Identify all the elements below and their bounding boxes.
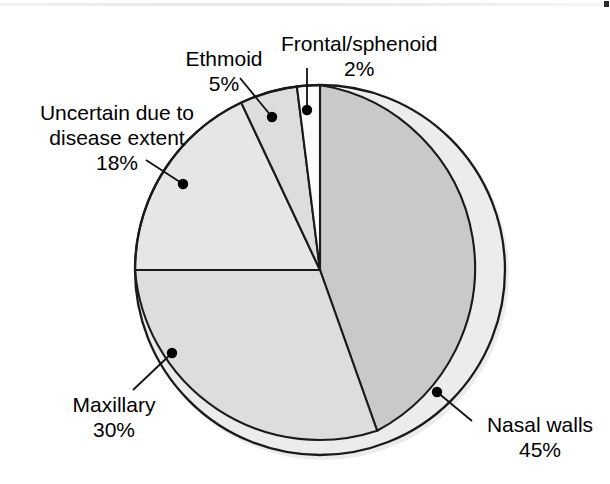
leader-dot-ethmoid — [267, 112, 277, 122]
slice-label-uncertain-name-line2: disease extent — [22, 125, 212, 150]
slice-label-maxillary-name: Maxillary — [56, 392, 172, 417]
slice-label-uncertain: Uncertain due to disease extent 18% — [22, 100, 212, 175]
leader-dot-uncertain — [178, 179, 188, 189]
slice-label-ethmoid: Ethmoid 5% — [178, 46, 270, 96]
leader-dot-nasal-walls — [432, 387, 442, 397]
slice-label-uncertain-percent: 18% — [22, 150, 212, 175]
slice-label-maxillary: Maxillary 30% — [56, 392, 172, 442]
slice-label-ethmoid-name: Ethmoid — [178, 46, 270, 71]
leader-dot-maxillary — [167, 348, 177, 358]
slice-label-nasal-walls-percent: 45% — [478, 437, 602, 462]
slice-label-frontal-sphenoid: Frontal/sphenoid 2% — [281, 31, 437, 81]
slice-label-nasal-walls: Nasal walls 45% — [478, 412, 602, 462]
figure-page: Frontal/sphenoid 2% Ethmoid 5% Uncertain… — [0, 0, 610, 484]
slice-label-uncertain-name-line1: Uncertain due to — [22, 100, 212, 125]
leader-dot-frontal-sphenoid — [302, 105, 312, 115]
slice-label-ethmoid-percent: 5% — [178, 71, 270, 96]
slice-label-frontal-sphenoid-name: Frontal/sphenoid — [281, 31, 437, 56]
slice-label-nasal-walls-name: Nasal walls — [478, 412, 602, 437]
slice-label-frontal-sphenoid-percent: 2% — [281, 56, 437, 81]
slice-label-maxillary-percent: 30% — [56, 417, 172, 442]
